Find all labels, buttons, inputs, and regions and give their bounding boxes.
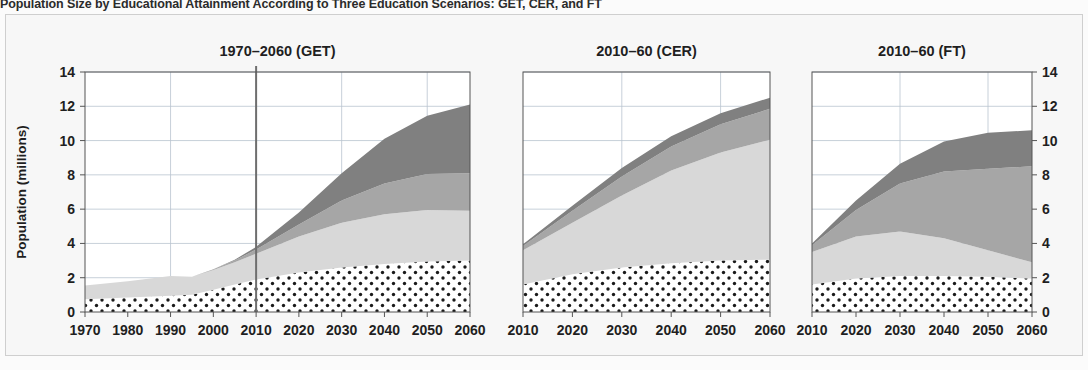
y-tick-label: 10 [59,133,75,149]
x-tick-label: 2060 [454,322,485,338]
x-tick-label: 2050 [972,322,1003,338]
panel-cer: 2010202020302040205020602010–60 (CER) [507,43,785,338]
x-tick-label: 2010 [796,322,827,338]
y-tick-label: 12 [59,98,75,114]
panel-title-cer: 2010–60 (CER) [596,43,697,59]
x-tick-label: 2030 [326,322,357,338]
y-tick-label: 8 [67,167,75,183]
panel-ft: 201020202030204020502060024681012142010–… [796,43,1057,338]
figure-container: Population Size by Educational Attainmen… [0,0,1088,370]
y-axis-label: Population (millions) [14,125,29,259]
x-tick-label: 1970 [69,322,100,338]
chart-svg: 1970198019902000201020202030204020502060… [0,0,1088,370]
y-tick-label: 14 [1042,64,1058,80]
y-tick-label: 8 [1042,167,1050,183]
y-tick-label: 2 [67,270,75,286]
x-tick-label: 2060 [754,322,785,338]
panels-root: 1970198019902000201020202030204020502060… [14,43,1058,338]
x-tick-label: 2000 [198,322,229,338]
y-tick-label: 10 [1042,133,1058,149]
panel-title-get: 1970–2060 (GET) [219,43,335,59]
x-tick-label: 1980 [112,322,143,338]
x-tick-label: 2060 [1016,322,1047,338]
x-tick-label: 2050 [705,322,736,338]
y-tick-label: 6 [67,201,75,217]
x-tick-label: 2010 [507,322,538,338]
y-tick-label: 12 [1042,98,1058,114]
x-tick-label: 2020 [557,322,588,338]
x-tick-label: 2040 [656,322,687,338]
area-dots [812,276,1032,312]
x-tick-label: 2020 [840,322,871,338]
x-tick-label: 1990 [155,322,186,338]
y-tick-label: 0 [1042,304,1050,320]
panel-get: 1970198019902000201020202030204020502060… [59,43,485,338]
panel-title-ft: 2010–60 (FT) [878,43,966,59]
x-tick-label: 2040 [369,322,400,338]
x-tick-label: 2030 [884,322,915,338]
x-tick-label: 2050 [412,322,443,338]
y-tick-label: 0 [67,304,75,320]
y-tick-label: 4 [67,235,75,251]
x-tick-label: 2010 [241,322,272,338]
y-tick-label: 6 [1042,201,1050,217]
x-tick-label: 2040 [928,322,959,338]
x-tick-label: 2030 [606,322,637,338]
y-tick-label: 14 [59,64,75,80]
y-tick-label: 4 [1042,235,1050,251]
y-tick-label: 2 [1042,270,1050,286]
x-tick-label: 2020 [283,322,314,338]
